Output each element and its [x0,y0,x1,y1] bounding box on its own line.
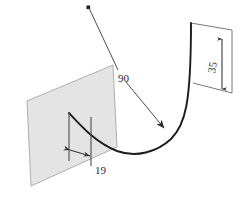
dimension-35-label: 35 [205,60,219,73]
flange-reference-plane [191,23,232,93]
dimension-35: 35 [205,39,222,89]
drawing-svg: 19 35 90 [0,0,243,211]
leader-line-arrow-segment [126,82,164,128]
technical-drawing-canvas: 19 35 90 [0,0,243,211]
dimension-90-label: 90 [118,72,130,84]
dimension-19-label: 19 [95,164,107,176]
leader-line [89,8,118,70]
